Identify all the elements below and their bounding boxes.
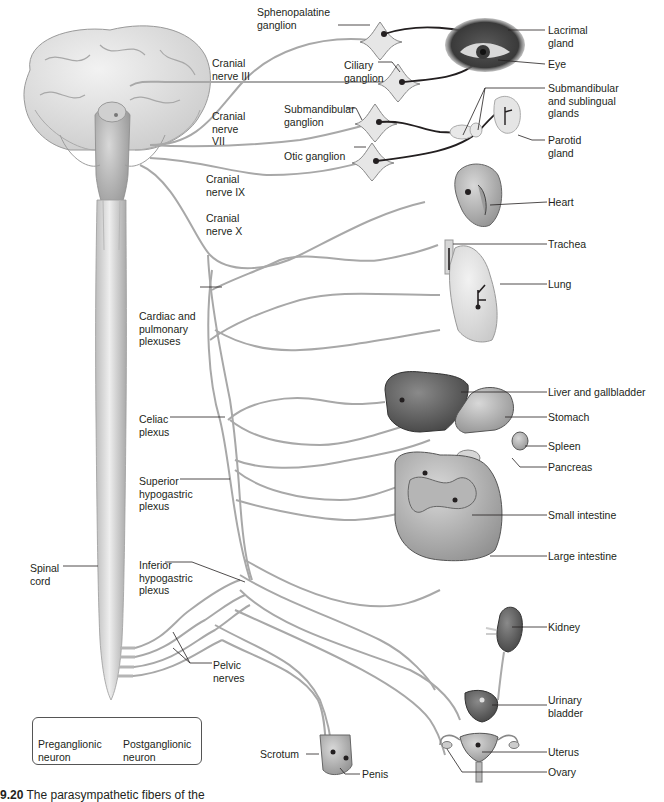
label-penis: Penis	[362, 768, 388, 781]
label-large-intestine: Large intestine	[548, 550, 617, 563]
caption-text: The parasympathetic fibers of the	[26, 788, 204, 802]
urinary-bladder-illustration	[465, 690, 498, 722]
eye-illustration	[445, 18, 525, 72]
label-eye: Eye	[548, 58, 566, 71]
spinal-cord-illustration	[96, 200, 135, 700]
label-submandibular-sublingual-glands: Submandibular and sublingual glands	[548, 82, 619, 120]
label-cardiac-pulmonary-plexuses: Cardiac and pulmonary plexuses	[139, 310, 196, 348]
legend-preganglionic-label: Preganglionic neuron	[38, 738, 102, 763]
label-pelvic-nerves: Pelvic nerves	[213, 659, 245, 684]
label-cranial-nerve-ix: Cranial nerve IX	[206, 173, 245, 198]
brain-illustration	[24, 26, 210, 215]
label-heart: Heart	[548, 196, 574, 209]
label-scrotum: Scrotum	[260, 748, 299, 761]
label-cranial-nerve-iii: Cranial nerve III	[212, 57, 250, 82]
otic-ganglion-icon	[352, 143, 394, 181]
label-superior-hypogastric-plexus: Superior hypogastric plexus	[139, 475, 193, 513]
label-submandibular-ganglion: Submandibular ganglion	[284, 103, 355, 128]
label-liver-gallbladder: Liver and gallbladder	[548, 386, 645, 399]
label-kidney: Kidney	[548, 621, 580, 634]
label-pancreas: Pancreas	[548, 461, 592, 474]
label-otic-ganglion: Otic ganglion	[284, 150, 345, 163]
label-cranial-nerve-x: Cranial nerve X	[206, 212, 242, 237]
sphenopalatine-ganglion-icon	[360, 22, 402, 60]
label-spinal-cord: Spinal cord	[30, 562, 59, 587]
label-cranial-nerve-vii: Cranial nerve VII	[212, 110, 245, 148]
scrotum-illustration	[320, 735, 352, 775]
label-urinary-bladder: Urinary bladder	[548, 694, 583, 719]
label-small-intestine: Small intestine	[548, 509, 616, 522]
label-lacrimal-gland: Lacrimal gland	[548, 24, 588, 49]
submandibular-ganglion-icon	[355, 104, 397, 142]
label-uterus: Uterus	[548, 746, 579, 759]
label-spleen: Spleen	[548, 440, 581, 453]
label-sphenopalatine-ganglion: Sphenopalatine ganglion	[257, 6, 330, 31]
label-celiac-plexus: Celiac plexus	[139, 413, 169, 438]
lung-illustration	[445, 240, 497, 342]
uterus-illustration	[440, 733, 519, 782]
label-parotid-gland: Parotid gland	[548, 134, 581, 159]
digestive-organs-illustration	[385, 372, 528, 561]
label-ciliary-ganglion: Ciliary ganglion	[344, 59, 384, 84]
legend-postganglionic-label: Postganglionic neuron	[123, 738, 191, 763]
label-lung: Lung	[548, 278, 571, 291]
label-inferior-hypogastric-plexus: Inferior hypogastric plexus	[139, 559, 193, 597]
kidney-illustration	[486, 607, 522, 700]
label-ovary: Ovary	[548, 766, 576, 779]
label-trachea: Trachea	[548, 238, 586, 251]
caption-number: 9.20	[0, 788, 23, 802]
heart-illustration	[455, 164, 502, 226]
salivary-glands-illustration	[450, 96, 520, 139]
figure-caption: 9.20 The parasympathetic fibers of the	[0, 788, 205, 802]
ciliary-ganglion-icon	[378, 64, 420, 102]
label-stomach: Stomach	[548, 411, 589, 424]
